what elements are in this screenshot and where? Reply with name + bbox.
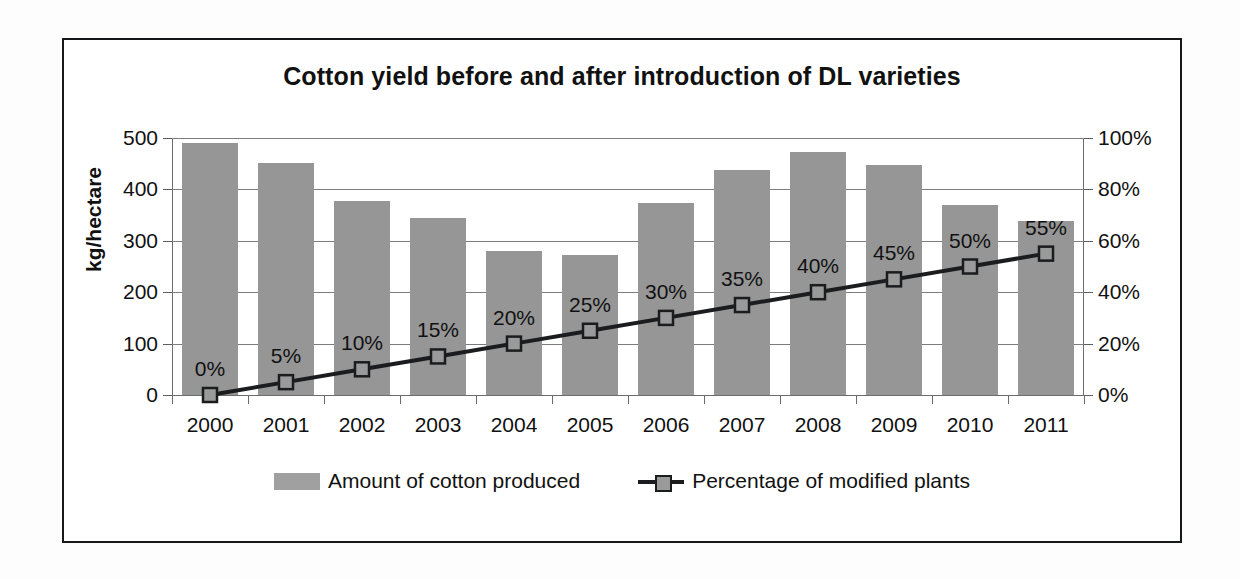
x-tick: [704, 395, 705, 404]
line-data-label: 10%: [341, 331, 383, 355]
line-series: [172, 138, 1084, 395]
y2-tick: [1084, 138, 1093, 139]
line-data-label: 30%: [645, 280, 687, 304]
x-tick: [248, 395, 249, 404]
y-tick: [163, 189, 172, 190]
line-marker[interactable]: [963, 260, 977, 274]
y2-tick-label: 60%: [1098, 229, 1140, 253]
y-tick: [163, 241, 172, 242]
line-marker[interactable]: [355, 362, 369, 376]
y-tick-label: 400: [123, 177, 158, 201]
y2-tick: [1084, 292, 1093, 293]
x-category-label: 2004: [491, 413, 538, 437]
line-data-label: 20%: [493, 306, 535, 330]
line-data-label: 25%: [569, 293, 611, 317]
x-tick: [780, 395, 781, 404]
line-marker[interactable]: [583, 324, 597, 338]
line-data-label: 50%: [949, 229, 991, 253]
chart-title: Cotton yield before and after introducti…: [64, 62, 1180, 91]
x-tick: [552, 395, 553, 404]
legend-item-bar[interactable]: Amount of cotton produced: [274, 469, 580, 493]
y2-tick: [1084, 241, 1093, 242]
line-marker[interactable]: [887, 272, 901, 286]
line-data-label: 15%: [417, 318, 459, 342]
y2-tick-label: 20%: [1098, 332, 1140, 356]
x-category-label: 2009: [871, 413, 918, 437]
line-marker[interactable]: [811, 285, 825, 299]
y2-tick: [1084, 344, 1093, 345]
x-category-label: 2006: [643, 413, 690, 437]
x-tick: [476, 395, 477, 404]
y-tick-label: 500: [123, 126, 158, 150]
line-path: [210, 254, 1046, 395]
y2-tick: [1084, 189, 1093, 190]
y-tick: [163, 292, 172, 293]
legend-item-line[interactable]: Percentage of modified plants: [638, 469, 970, 493]
x-category-label: 2002: [339, 413, 386, 437]
x-tick: [628, 395, 629, 404]
y-tick-label: 0: [146, 383, 158, 407]
y2-tick-label: 0%: [1098, 383, 1128, 407]
x-tick: [400, 395, 401, 404]
x-category-label: 2010: [947, 413, 994, 437]
chart-page: Cotton yield before and after introducti…: [0, 0, 1240, 579]
x-category-label: 2011: [1023, 413, 1068, 437]
y-tick-label: 300: [123, 229, 158, 253]
line-data-label: 45%: [873, 241, 915, 265]
y2-tick-label: 80%: [1098, 177, 1140, 201]
line-marker[interactable]: [659, 311, 673, 325]
x-tick: [856, 395, 857, 404]
bar-swatch-icon: [274, 473, 320, 490]
line-data-label: 0%: [195, 357, 225, 381]
x-category-label: 2003: [415, 413, 462, 437]
line-marker-icon: [638, 472, 684, 490]
x-tick: [932, 395, 933, 404]
x-category-label: 2000: [187, 413, 234, 437]
legend-label-line: Percentage of modified plants: [692, 469, 970, 493]
y-axis-title: kg/hectare: [82, 167, 106, 272]
line-marker[interactable]: [735, 298, 749, 312]
y-tick: [163, 138, 172, 139]
y-tick-label: 100: [123, 332, 158, 356]
line-data-label: 5%: [271, 344, 301, 368]
y-tick-label: 200: [123, 280, 158, 304]
line-marker[interactable]: [431, 349, 445, 363]
y2-tick-label: 100%: [1098, 126, 1152, 150]
x-tick: [1008, 395, 1009, 404]
line-marker[interactable]: [203, 388, 217, 402]
x-category-label: 2001: [263, 413, 310, 437]
x-tick: [172, 395, 173, 404]
x-tick: [324, 395, 325, 404]
line-marker[interactable]: [507, 337, 521, 351]
x-category-label: 2007: [719, 413, 766, 437]
line-data-label: 55%: [1025, 216, 1067, 240]
chart-frame: Cotton yield before and after introducti…: [62, 38, 1182, 543]
legend-label-bar: Amount of cotton produced: [328, 469, 580, 493]
chart-legend: Amount of cotton produced Percentage of …: [64, 469, 1180, 493]
line-data-label: 40%: [797, 254, 839, 278]
y2-tick: [1084, 395, 1093, 396]
plot-area: 0100200300400500 0%20%40%60%80%100% 0%5%…: [172, 138, 1084, 395]
y2-tick-label: 40%: [1098, 280, 1140, 304]
y-tick: [163, 344, 172, 345]
x-tick: [1084, 395, 1085, 404]
line-data-label: 35%: [721, 267, 763, 291]
x-category-label: 2008: [795, 413, 842, 437]
x-category-label: 2005: [567, 413, 614, 437]
y-tick: [163, 395, 172, 396]
line-marker[interactable]: [279, 375, 293, 389]
line-marker[interactable]: [1039, 247, 1053, 261]
